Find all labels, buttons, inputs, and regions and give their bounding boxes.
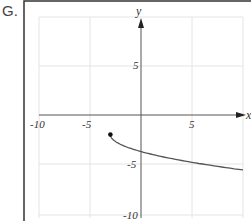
graph-frame: [24, 1, 251, 221]
graph: x y -10 -5 5 5 -5 -10: [0, 0, 251, 221]
x-tick: -5: [82, 118, 92, 130]
x-axis-label: x: [245, 108, 251, 122]
x-tick: 5: [189, 118, 195, 130]
y-tick: -5: [127, 158, 137, 170]
y-tick: 5: [133, 59, 139, 71]
start-point-dot: [108, 132, 113, 137]
x-tick: -10: [30, 118, 45, 130]
y-axis-label: y: [135, 4, 142, 18]
y-tick: -10: [123, 209, 138, 221]
